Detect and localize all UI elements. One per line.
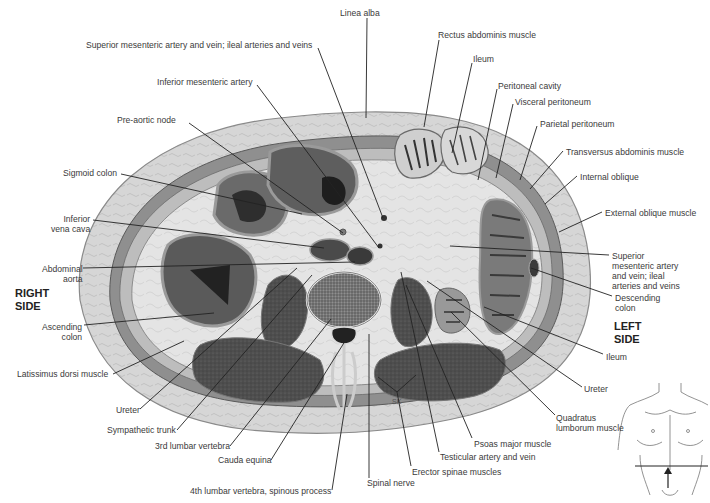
label-linea-alba: Linea alba [340,8,380,18]
label-text-line: 4th lumbar vertebra, spinous process [190,486,331,496]
label-descending-colon: Descendingcolon [615,293,660,313]
label-spinal-nerve: Spinal nerve [367,478,415,488]
side-label-right: RIGHT SIDE [15,287,49,313]
leader-line-linea-alba [366,18,367,118]
label-cauda-equina: Cauda equina [218,455,272,465]
label-external-oblique: External oblique muscle [605,208,696,218]
label-inferior-mesenteric-artery: Inferior mesenteric artery [157,77,253,87]
label-text-line: lumborum muscle [556,423,624,433]
label-text-line: Peritoneal cavity [498,81,561,91]
label-sma-smv-ileal-right: Superiormesenteric arteryand vein; ileal… [612,251,680,291]
label-text-line: Transversus abdominis muscle [566,147,684,157]
label-text-line: Psoas major muscle [474,439,551,449]
label-text-line: colon [42,332,82,342]
label-text-line: Spinal nerve [367,478,415,488]
label-latissimus-dorsi: Latissimus dorsi muscle [17,369,108,379]
side-label-right-line1: RIGHT [15,287,49,300]
label-psoas-major: Psoas major muscle [474,439,551,449]
label-sigmoid-colon: Sigmoid colon [63,168,117,178]
label-ureter-left: Ureter [584,384,608,394]
label-text-line: Latissimus dorsi muscle [17,369,108,379]
label-text-line: Sigmoid colon [63,168,117,178]
label-transversus-abdominis: Transversus abdominis muscle [566,147,684,157]
torso-orientation-inset [618,383,708,495]
side-label-left-line2: SIDE [614,333,642,346]
label-visceral-peritoneum: Visceral peritoneum [515,97,591,107]
label-4th-lumbar-spinous: 4th lumbar vertebra, spinous process [190,486,331,496]
side-label-right-line2: SIDE [15,300,49,313]
label-text-line: colon [615,303,660,313]
label-text-line: Ureter [116,405,140,415]
label-text-line: Parietal peritoneum [540,119,615,129]
label-text-line: vena cava [51,224,90,234]
anatomy-figure: SK RIGHT SIDE LEFT SIDE Linea albaSuperi… [0,0,710,503]
label-ileum-bottom: Ileum [606,352,627,362]
label-text-line: and vein; ileal [612,271,680,281]
label-text-line: Descending [615,293,660,303]
label-quadratus-lumborum: Quadratuslumborum muscle [556,413,624,433]
label-ileum-top: Ileum [473,54,494,64]
label-text-line: Ascending [42,322,82,332]
label-text-line: Pre-aortic node [117,115,176,125]
label-text-line: Internal oblique [580,172,639,182]
label-text-line: 3rd lumbar vertebra [155,441,230,451]
label-text-line: Ureter [584,384,608,394]
label-text-line: mesenteric artery [612,261,680,271]
label-text-line: Rectus abdominis muscle [438,30,536,40]
label-text-line: External oblique muscle [605,208,696,218]
label-text-line: Quadratus [556,413,624,423]
label-testicular-artery-vein: Testicular artery and vein [440,452,536,462]
label-text-line: arteries and veins [612,281,680,291]
label-sma-smv-ileal-top: Superior mesenteric artery and vein; ile… [86,40,312,50]
label-text-line: Sympathetic trunk [107,425,176,435]
artist-initials: SK [392,398,402,405]
label-text-line: Ileum [473,54,494,64]
label-text-line: Abdominal [42,264,83,274]
label-text-line: Testicular artery and vein [440,452,536,462]
label-abdominal-aorta: Abdominalaorta [42,264,83,284]
label-inferior-vena-cava: Inferiorvena cava [51,214,90,234]
label-text-line: Superior [612,251,680,261]
label-rectus-abdominis: Rectus abdominis muscle [438,30,536,40]
label-parietal-peritoneum: Parietal peritoneum [540,119,615,129]
label-3rd-lumbar-vertebra: 3rd lumbar vertebra [155,441,230,451]
label-peritoneal-cavity: Peritoneal cavity [498,81,561,91]
arrow-up-icon [664,467,672,474]
leader-line-rectus-abdominis [424,40,439,127]
label-text-line: Cauda equina [218,455,272,465]
label-text-line: Visceral peritoneum [515,97,591,107]
label-text-line: Inferior [51,214,90,224]
label-text-line: Inferior mesenteric artery [157,77,253,87]
label-text-line: Erector spinae muscles [412,467,501,477]
label-sympathetic-trunk: Sympathetic trunk [107,425,176,435]
label-text-line: aorta [42,274,83,284]
label-erector-spinae: Erector spinae muscles [412,467,501,477]
label-pre-aortic-node: Pre-aortic node [117,115,176,125]
label-text-line: Linea alba [340,8,380,18]
side-label-left-line1: LEFT [614,320,642,333]
ascending-colon-shape [162,235,256,326]
label-internal-oblique: Internal oblique [580,172,639,182]
label-text-line: Superior mesenteric artery and vein; ile… [86,40,312,50]
label-text-line: Ileum [606,352,627,362]
label-ascending-colon: Ascendingcolon [42,322,82,342]
label-ureter-right: Ureter [116,405,140,415]
side-label-left: LEFT SIDE [614,320,642,346]
section-plane-indicator [635,466,708,488]
